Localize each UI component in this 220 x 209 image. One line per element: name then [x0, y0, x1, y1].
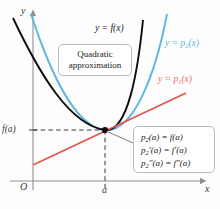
curve-label-p1-prefix: y = p — [158, 74, 178, 84]
condition-0-lhs-sub: 2 — [146, 136, 149, 143]
condition-0-eq: = — [162, 132, 168, 142]
curve-label-p2-prefix: y = p — [165, 38, 185, 48]
quadratic-callout-line2: approximation — [69, 60, 122, 71]
condition-2-eq: = — [165, 158, 171, 168]
quadratic-approximation-figure: y x O a f(a) y = f(x) y = p2(x) y = p1(x… — [0, 0, 220, 209]
curve-label-p2: y = p2(x) — [165, 39, 199, 49]
y-tick-label-fa: f(a) — [2, 125, 16, 135]
condition-1-lhs-rest: ′(a) — [149, 145, 161, 155]
condition-2-lhs-rest: ″(a) — [149, 158, 163, 168]
condition-1-eq: = — [163, 145, 169, 155]
x-axis-label: x — [205, 184, 209, 194]
condition-0-lhs-rest: (a) — [149, 132, 160, 142]
condition-1-rhs: f′(a) — [172, 145, 187, 155]
curve-label-f: y = f(x) — [95, 24, 124, 34]
matching-conditions-callout: p2(a) = f(a) p2′(a) = f′(a) p2″(a) = f″(… — [133, 126, 215, 173]
condition-1-lhs-p: p — [141, 145, 146, 155]
condition-2-lhs-sub: 2 — [146, 162, 149, 169]
curve-label-p1: y = p1(x) — [158, 75, 192, 85]
condition-2-rhs: f″(a) — [174, 158, 191, 168]
condition-0-rhs: f(a) — [170, 132, 183, 142]
origin-label: O — [20, 182, 27, 192]
x-tick-label-a: a — [102, 185, 107, 195]
condition-equation-0: p2(a) = f(a) — [141, 131, 214, 144]
curve-label-p2-sub: 2 — [185, 42, 188, 49]
condition-equation-2: p2″(a) = f″(a) — [141, 157, 214, 170]
curve-label-p1-suffix: (x) — [181, 74, 192, 84]
condition-equation-1: p2′(a) = f′(a) — [141, 144, 214, 157]
curve-label-p1-sub: 1 — [178, 78, 181, 85]
quadratic-callout-line1: Quadratic — [77, 49, 112, 60]
condition-2-lhs-p: p — [141, 158, 146, 168]
quadratic-approximation-callout: Quadratic approximation — [58, 44, 132, 76]
condition-0-lhs-p: p — [141, 132, 146, 142]
tangent-point-marker — [102, 127, 108, 133]
curve-label-p2-suffix: (x) — [188, 38, 199, 48]
condition-1-lhs-sub: 2 — [146, 149, 149, 156]
y-axis-label: y — [21, 6, 25, 16]
